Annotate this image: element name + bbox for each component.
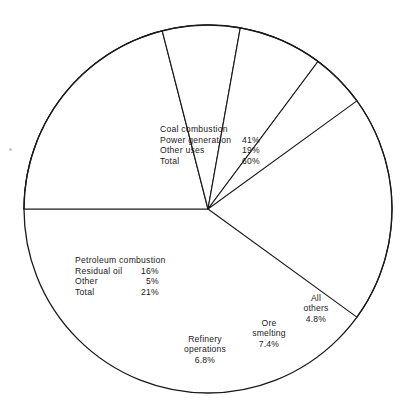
- wedge-label-refinery-operations: Refinery operations 6.8%: [170, 334, 240, 365]
- wedge-label-value: 6.8%: [170, 355, 240, 365]
- callout-heading: Petroleum combustion: [75, 255, 137, 266]
- pie-chart-figure: Coal combustion Power generation 41% Oth…: [0, 0, 404, 410]
- wedge-label-line: smelting: [238, 328, 300, 338]
- callout-row: Other 5%: [75, 276, 159, 287]
- callout-row-value: 16%: [137, 266, 159, 277]
- wedge-label-value: 7.4%: [238, 339, 300, 349]
- callout-total-row: Total 60%: [160, 156, 260, 167]
- callout-row-value: 60%: [238, 156, 260, 167]
- callout-row-value: 5%: [137, 276, 159, 287]
- callout-row-label: Total: [160, 156, 238, 167]
- callout-heading: Coal combustion: [160, 124, 238, 135]
- scan-speck: [9, 148, 12, 151]
- callout-row: Other uses 19%: [160, 145, 260, 156]
- wedge-label-line: operations: [170, 344, 240, 354]
- callout-petroleum-combustion: Petroleum combustion Residual oil 16% Ot…: [75, 255, 159, 297]
- callout-row-label: Total: [75, 287, 137, 298]
- callout-row: Residual oil 16%: [75, 266, 159, 277]
- wedge-label-line: others: [288, 303, 344, 313]
- callout-row-label: Other: [75, 276, 137, 287]
- callout-row-value: 41%: [238, 135, 260, 146]
- callout-row: Power generation 41%: [160, 135, 260, 146]
- callout-total-row: Total 21%: [75, 287, 159, 298]
- callout-heading-row: Petroleum combustion: [75, 255, 159, 266]
- callout-row-value: 19%: [238, 145, 260, 156]
- callout-row-value: 21%: [137, 287, 159, 298]
- wedge-label-all-others: All others 4.8%: [288, 293, 344, 324]
- wedge-label-line: Refinery: [170, 334, 240, 344]
- callout-coal-combustion: Coal combustion Power generation 41% Oth…: [160, 124, 260, 166]
- callout-heading-row: Coal combustion: [160, 124, 260, 135]
- callout-row-label: Residual oil: [75, 266, 137, 277]
- callout-row-label: Other uses: [160, 145, 238, 156]
- wedge-label-value: 4.8%: [288, 314, 344, 324]
- wedge-label-line: All: [288, 293, 344, 303]
- callout-row-label: Power generation: [160, 135, 238, 146]
